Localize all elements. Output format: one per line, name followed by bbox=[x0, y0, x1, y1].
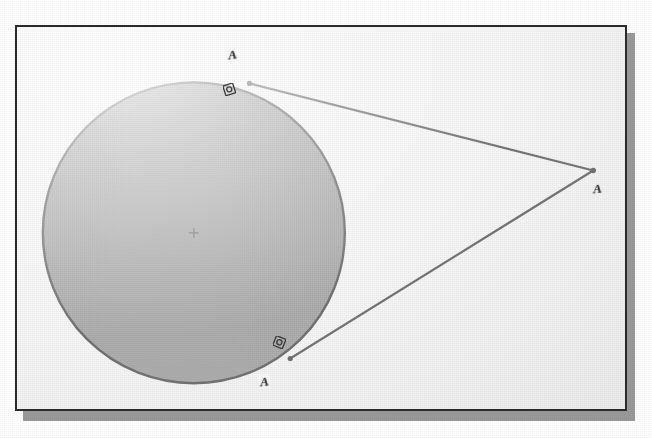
label-lower-tangent-point: A bbox=[257, 373, 271, 389]
upper-right-angle-marker-icon bbox=[223, 83, 236, 96]
label-external-apex-point: A bbox=[592, 182, 601, 196]
label-upper-tangent-point: A bbox=[225, 46, 239, 63]
lower-right-angle-marker-icon bbox=[273, 336, 286, 349]
external-apex-point bbox=[590, 168, 596, 174]
upper-tangency-point bbox=[247, 81, 252, 86]
lower-tangency-point bbox=[288, 356, 293, 361]
figure-frame: A A A bbox=[15, 25, 627, 411]
geometry-canvas bbox=[17, 27, 625, 409]
screenshot-root: A A A bbox=[0, 0, 652, 438]
